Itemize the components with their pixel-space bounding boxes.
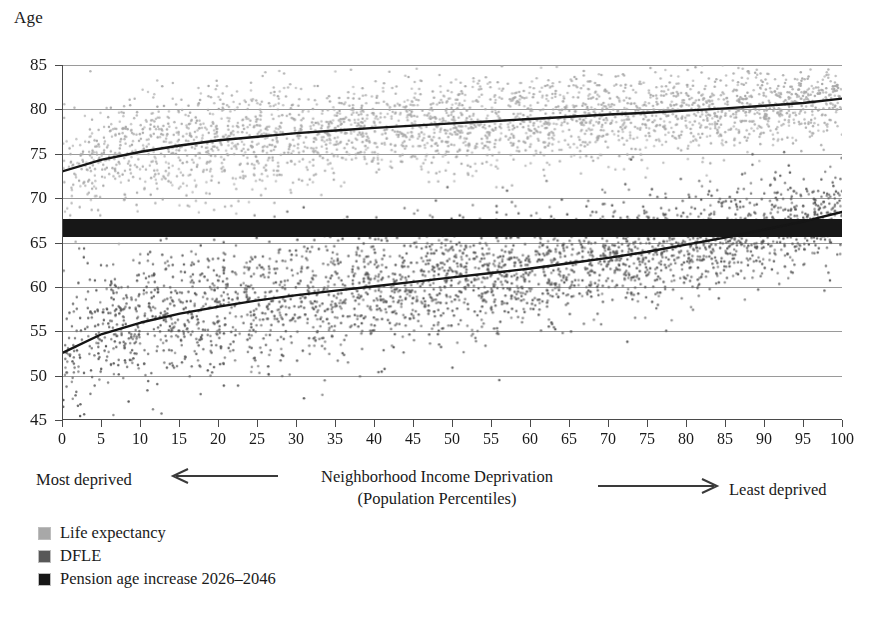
legend-item[interactable]: DFLE xyxy=(38,545,276,568)
x-tick xyxy=(335,420,336,427)
x-axis-caption: Most deprived Neighborhood Income Depriv… xyxy=(0,466,875,516)
x-tick-label: 65 xyxy=(549,431,589,447)
y-tick xyxy=(55,198,62,199)
x-tick-label: 50 xyxy=(432,431,472,447)
legend-item-label: Life expectancy xyxy=(60,525,166,542)
fit-curves-layer xyxy=(63,65,842,419)
x-tick-label: 55 xyxy=(471,431,511,447)
x-tick xyxy=(803,420,804,427)
x-tick-label: 100 xyxy=(822,431,862,447)
y-tick-label: 65 xyxy=(13,234,47,251)
x-tick-label: 5 xyxy=(81,431,121,447)
plot-area xyxy=(62,65,842,420)
x-tick-label: 30 xyxy=(276,431,316,447)
y-axis-title: Age xyxy=(14,8,43,28)
y-tick-label: 55 xyxy=(13,322,47,339)
legend-item[interactable]: Life expectancy xyxy=(38,522,276,545)
x-axis-label-line1: Neighborhood Income Deprivation xyxy=(287,466,587,488)
legend-item-label: DFLE xyxy=(60,548,101,565)
x-tick-label: 85 xyxy=(705,431,745,447)
x-tick xyxy=(257,420,258,427)
x-tick-label: 90 xyxy=(744,431,784,447)
y-tick xyxy=(55,154,62,155)
chart-legend: Life expectancyDFLEPension age increase … xyxy=(38,522,276,591)
x-tick-label: 40 xyxy=(354,431,394,447)
y-tick xyxy=(55,420,62,421)
x-tick xyxy=(101,420,102,427)
caption-most-deprived: Most deprived xyxy=(36,470,132,490)
y-tick-label: 45 xyxy=(13,411,47,428)
x-tick-label: 70 xyxy=(588,431,628,447)
x-tick-label: 60 xyxy=(510,431,550,447)
x-tick xyxy=(413,420,414,427)
y-tick-label: 50 xyxy=(13,367,47,384)
y-tick xyxy=(55,331,62,332)
x-tick xyxy=(62,420,63,427)
y-tick xyxy=(55,376,62,377)
arrow-left-icon xyxy=(170,466,280,486)
x-tick xyxy=(140,420,141,427)
y-tick-label: 75 xyxy=(13,145,47,162)
legend-swatch-icon xyxy=(38,527,51,540)
x-tick xyxy=(452,420,453,427)
legend-item[interactable]: Pension age increase 2026–2046 xyxy=(38,568,276,591)
legend-swatch-icon xyxy=(38,573,51,586)
x-tick xyxy=(842,420,843,427)
x-axis-label-line2: (Population Percentiles) xyxy=(287,488,587,510)
chart-figure: Age 455055606570758085 05101520253035404… xyxy=(0,0,875,620)
x-tick xyxy=(218,420,219,427)
fit-curve xyxy=(63,212,842,353)
x-tick-label: 35 xyxy=(315,431,355,447)
x-tick xyxy=(686,420,687,427)
y-tick xyxy=(55,287,62,288)
x-tick-label: 80 xyxy=(666,431,706,447)
x-tick xyxy=(530,420,531,427)
y-tick-label: 60 xyxy=(13,278,47,295)
x-tick xyxy=(491,420,492,427)
legend-swatch-icon xyxy=(38,550,51,563)
x-tick xyxy=(296,420,297,427)
fit-curve xyxy=(63,99,842,172)
y-tick-label: 85 xyxy=(13,56,47,73)
x-tick xyxy=(647,420,648,427)
x-tick-label: 75 xyxy=(627,431,667,447)
y-tick xyxy=(55,243,62,244)
x-tick xyxy=(608,420,609,427)
x-axis-label-block: Neighborhood Income Deprivation (Populat… xyxy=(287,466,587,510)
x-tick-label: 15 xyxy=(159,431,199,447)
x-tick-label: 20 xyxy=(198,431,238,447)
x-tick xyxy=(374,420,375,427)
x-tick xyxy=(179,420,180,427)
caption-least-deprived: Least deprived xyxy=(729,480,827,500)
y-tick xyxy=(55,65,62,66)
x-tick-label: 10 xyxy=(120,431,160,447)
arrow-right-icon xyxy=(596,476,720,496)
y-tick-label: 80 xyxy=(13,100,47,117)
x-tick xyxy=(725,420,726,427)
x-tick-label: 25 xyxy=(237,431,277,447)
y-tick xyxy=(55,109,62,110)
x-tick-label: 45 xyxy=(393,431,433,447)
x-tick xyxy=(764,420,765,427)
x-tick-label: 0 xyxy=(42,431,82,447)
legend-item-label: Pension age increase 2026–2046 xyxy=(60,571,276,588)
y-tick-label: 70 xyxy=(13,189,47,206)
x-tick-label: 95 xyxy=(783,431,823,447)
x-tick xyxy=(569,420,570,427)
